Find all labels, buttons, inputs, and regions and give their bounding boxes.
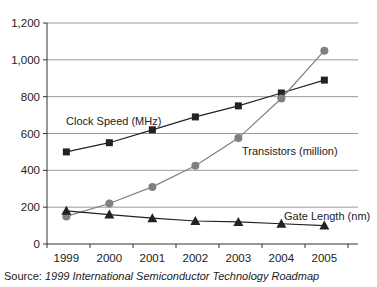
source-caption: Source: 1999 International Semiconductor… (4, 270, 319, 282)
y-tick-label: 800 (21, 91, 40, 103)
source-title: 1999 International Semiconductor Technol… (45, 270, 319, 282)
circle-marker (148, 183, 156, 191)
y-tick-label: 200 (21, 201, 40, 213)
y-axis-ticks: 02004006008001,0001,200 (11, 17, 47, 250)
square-marker (235, 102, 242, 109)
x-tick-label: 2000 (97, 252, 123, 264)
x-axis-ticks: 1999200020012002200320042005 (47, 244, 348, 264)
circle-marker (234, 134, 242, 142)
circle-marker (105, 199, 113, 207)
circle-marker (320, 47, 328, 55)
circle-marker (191, 162, 199, 170)
circle-marker (277, 95, 285, 103)
source-prefix: Source: (4, 270, 45, 282)
x-tick-label: 2004 (269, 252, 295, 264)
x-tick-label: 2001 (140, 252, 166, 264)
x-tick-label: 2005 (312, 252, 338, 264)
square-marker (149, 126, 156, 133)
x-tick-label: 1999 (54, 252, 80, 264)
line-chart: 02004006008001,0001,200 1999200020012002… (0, 0, 377, 287)
x-tick-label: 2003 (226, 252, 252, 264)
y-tick-label: 0 (34, 238, 40, 250)
y-tick-label: 1,000 (11, 54, 40, 66)
square-marker (321, 77, 328, 84)
y-tick-label: 1,200 (11, 17, 40, 29)
transistors-label: Transistors (million) (242, 145, 338, 157)
square-marker (63, 148, 70, 155)
square-marker (106, 139, 113, 146)
x-tick-label: 2002 (183, 252, 209, 264)
square-marker (192, 113, 199, 120)
gate-length-label: Gate Length (nm) (284, 210, 370, 222)
data-series (61, 47, 329, 230)
clock-speed-label: Clock Speed (MHz) (66, 115, 161, 127)
y-tick-label: 600 (21, 128, 40, 140)
y-tick-label: 400 (21, 164, 40, 176)
